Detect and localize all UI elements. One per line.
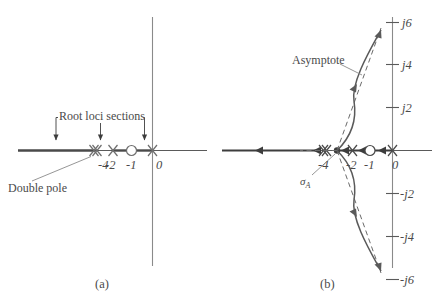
panel-b-caption: (b) bbox=[320, 277, 335, 291]
panel-b-tick-label-0: 0 bbox=[392, 158, 399, 172]
panel-a-tick-label--1: -1 bbox=[126, 158, 136, 172]
panel-a-double-pole-label: Double pole bbox=[8, 181, 67, 195]
panel-b-zero-minus1-marker bbox=[365, 146, 375, 156]
panel-a-zero-minus1-marker bbox=[127, 146, 137, 156]
panel-a: -4 -2 -1 0 Root loci sections Double pol… bbox=[8, 17, 207, 291]
panel-b-sigma-a-label: σA bbox=[300, 175, 310, 190]
panel-b-tick-label--2: -2 bbox=[346, 158, 356, 172]
panel-b-sigma-a-subscript: A bbox=[304, 181, 310, 190]
panel-b-imag-tick-label--j6: -j6 bbox=[400, 273, 415, 287]
panel-b-tick-label--4: -4 bbox=[318, 158, 328, 172]
root-locus-figure: -4 -2 -1 0 Root loci sections Double pol… bbox=[0, 0, 439, 307]
figure-canvas: -4 -2 -1 0 Root loci sections Double pol… bbox=[0, 0, 439, 307]
panel-b-imag-tick-label-j6: j6 bbox=[400, 16, 412, 30]
panel-b-imag-tick-label--j2: -j2 bbox=[400, 187, 414, 201]
panel-b-imag-tick-label--j4: -j4 bbox=[400, 230, 414, 244]
panel-b-tick-label--1: -1 bbox=[364, 158, 374, 172]
panel-b-imag-tick-label-j4: j4 bbox=[400, 58, 412, 72]
panel-b-asymptote-label: Asymptote bbox=[292, 53, 345, 67]
panel-a-tick-label--2: -2 bbox=[105, 158, 115, 172]
panel-a-caption: (a) bbox=[95, 277, 109, 291]
panel-b-imag-tick-label-j2: j2 bbox=[400, 101, 412, 115]
panel-a-root-loci-label: Root loci sections bbox=[59, 109, 145, 123]
panel-b-asymptote-upper bbox=[337, 28, 381, 151]
panel-a-double-pole-leader bbox=[32, 157, 91, 182]
panel-a-tick-label-0: 0 bbox=[156, 158, 163, 172]
panel-b: Asymptote σA -4 -2 -1 0 j6 j4 j2 -j2 -j4… bbox=[222, 16, 432, 291]
